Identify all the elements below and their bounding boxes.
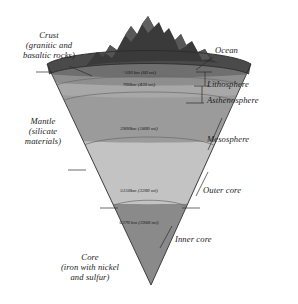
inner-core-label: Inner core <box>175 234 212 244</box>
mesosphere-label: Mesosphere <box>207 134 249 144</box>
asthenosphere-label: Asthenosphere <box>207 95 259 105</box>
core-label: Core (iron with nickel and sulfur) <box>38 252 142 282</box>
crust-label: Crust (granitic and basaltic rocks) <box>8 30 90 60</box>
lithosphere-label: Lithosphere <box>207 79 249 89</box>
mantle-label: Mantle (silicate materials) <box>4 116 82 146</box>
mountain-range <box>86 16 219 66</box>
depth-label-core-mantle-boundary: 2900km (1800 mi) <box>90 126 188 132</box>
depth-label-earth-center: 6370 km (3960 mi) <box>94 220 184 226</box>
mountain-silhouette <box>86 16 219 66</box>
outer-core-label: Outer core <box>203 185 241 195</box>
earth-cross-section-diagram: Crust (granitic and basaltic rocks) Mant… <box>0 0 298 304</box>
ocean-label: Ocean <box>215 45 238 55</box>
depth-label-lithosphere-base: ~100 km (60 mi) <box>90 70 188 76</box>
depth-label-inner-core-boundary: 5150km (3200 mi) <box>90 188 188 194</box>
depth-label-asthenosphere-base: 700km (430 mi) <box>90 82 188 88</box>
